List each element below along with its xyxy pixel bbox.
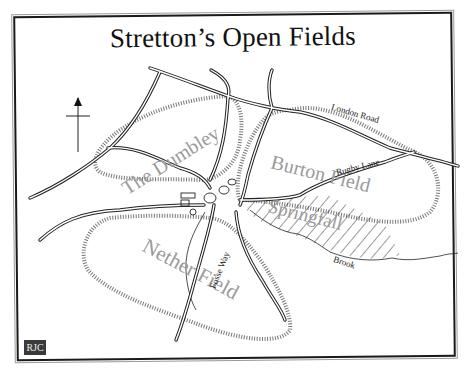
north-arrow-icon — [66, 97, 90, 152]
map-canvas: The Dumbley Burton Field Springfall Neth… — [0, 0, 471, 370]
water-label-brook: Brook — [332, 254, 357, 271]
field-label-burton-field: Burton Field — [269, 150, 373, 196]
credit-badge: RJC — [24, 340, 46, 355]
field-label-the-dumbley: The Dumbley — [118, 122, 224, 200]
